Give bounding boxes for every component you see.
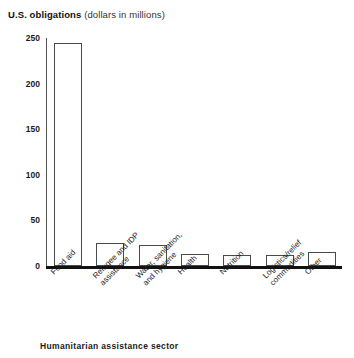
chart-title: U.S. obligations (dollars in millions)	[8, 9, 165, 20]
bar-slot	[139, 38, 167, 266]
bar-slot	[223, 38, 251, 266]
bars-container	[47, 38, 342, 266]
x-axis-title: Humanitarian assistance sector	[40, 341, 179, 351]
bar[interactable]	[54, 43, 82, 266]
y-axis-tick-label: 0	[4, 262, 40, 271]
bar-chart: U.S. obligations (dollars in millions) 2…	[0, 0, 354, 358]
x-axis-line	[46, 266, 342, 269]
y-axis-tick-label: 50	[4, 216, 40, 225]
bar-slot	[266, 38, 294, 266]
x-axis-category-labels: Food aidRefugee and IDPassistanceWater, …	[46, 270, 346, 340]
chart-title-strong: U.S. obligations	[8, 9, 81, 20]
bar-slot	[96, 38, 124, 266]
y-axis-tick-label: 100	[4, 171, 40, 180]
bar-slot	[181, 38, 209, 266]
y-axis-tick-label: 250	[4, 34, 40, 43]
bar-slot	[308, 38, 336, 266]
chart-title-subtitle: (dollars in millions)	[84, 9, 165, 20]
y-axis-tick-label: 150	[4, 125, 40, 134]
bar-slot	[54, 38, 82, 266]
y-axis-tick-label: 200	[4, 80, 40, 89]
plot-area	[46, 38, 342, 266]
y-axis-tick-labels: 250200150100500	[0, 38, 44, 270]
